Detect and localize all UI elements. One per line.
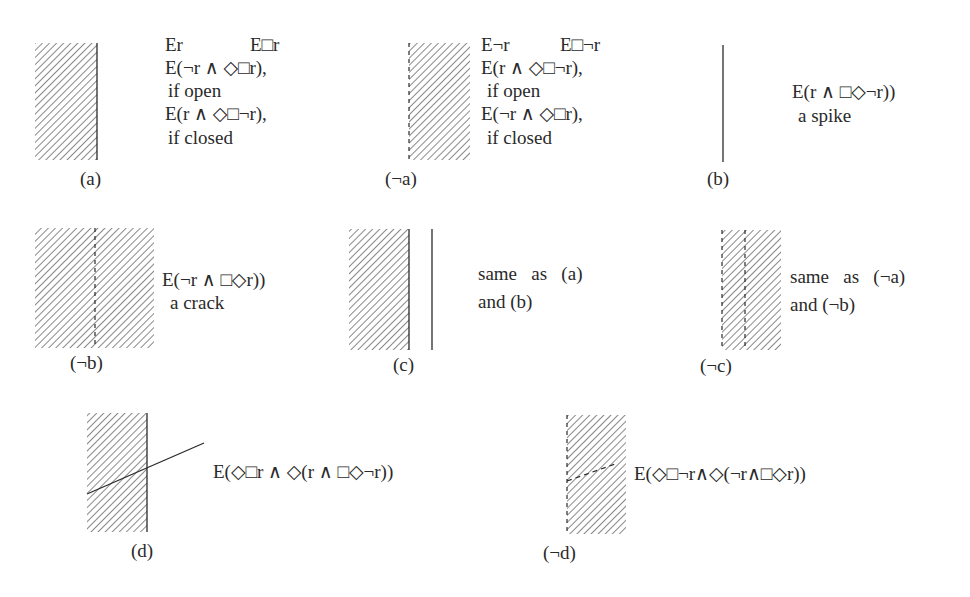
panel-not-a-formula-closed: E(¬r ∧ ◇□r),	[481, 102, 583, 125]
region-c	[349, 229, 432, 350]
panel-not-b-formula: E(¬r ∧ □◇r))	[162, 268, 265, 291]
region-not-c	[722, 230, 781, 350]
panel-not-c-note-line2: and (¬b)	[790, 293, 855, 316]
panel-not-a-note-open: if open	[487, 79, 540, 102]
panel-not-b-label: (¬b)	[70, 352, 103, 374]
region-a-closed	[35, 43, 97, 160]
panel-a-formula-box-r: E□r	[250, 33, 279, 56]
panel-b-note: a spike	[798, 104, 851, 127]
region-not-b-crack	[35, 228, 154, 348]
panel-c-label: (c)	[393, 354, 414, 376]
panel-not-a-formula-open: E(r ∧ ◇□¬r),	[481, 56, 583, 79]
region-not-a-open	[409, 43, 470, 160]
panel-c-note-line2: and (b)	[478, 290, 532, 313]
panel-d-label: (d)	[131, 540, 153, 562]
panel-not-d-label: (¬d)	[543, 542, 576, 564]
region-d	[87, 413, 204, 532]
panel-a-formula-open: E(¬r ∧ ◇□r),	[165, 56, 267, 79]
panel-d-formula: E(◇□r ∧ ◇(r ∧ □◇¬r))	[213, 460, 393, 483]
panel-not-b-note: a crack	[170, 291, 224, 314]
panel-b-formula: E(r ∧ □◇¬r))	[792, 80, 895, 103]
region-not-d	[567, 415, 626, 534]
panel-not-a-formula-e-not-r: E¬r	[481, 33, 510, 56]
panel-a-note-closed: if closed	[168, 126, 233, 149]
panel-not-a-formula-box-not-r: E□¬r	[560, 33, 600, 56]
panel-not-c-label: (¬c)	[700, 355, 732, 377]
panel-c-note-line1: same as (a)	[478, 262, 582, 285]
panel-a-label: (a)	[80, 168, 101, 190]
panel-not-a-note-closed: if closed	[487, 126, 552, 149]
panel-not-a-label: (¬a)	[385, 168, 417, 190]
panel-not-c-note-line1: same as (¬a)	[790, 265, 905, 288]
panel-b-label: (b)	[707, 168, 729, 190]
panel-a-formula-closed: E(r ∧ ◇□¬r),	[165, 102, 267, 125]
panel-a-note-open: if open	[168, 79, 221, 102]
panel-a-formula-er: Er	[165, 33, 183, 56]
panel-not-d-formula: E(◇□¬r∧◇(¬r∧□◇r))	[634, 462, 806, 485]
